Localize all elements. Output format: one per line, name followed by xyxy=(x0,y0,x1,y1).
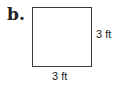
square-shape xyxy=(32,7,92,67)
figure-label: b. xyxy=(7,4,25,24)
right-side-dimension: 3 ft xyxy=(96,28,111,41)
bottom-side-dimension: 3 ft xyxy=(52,70,67,83)
